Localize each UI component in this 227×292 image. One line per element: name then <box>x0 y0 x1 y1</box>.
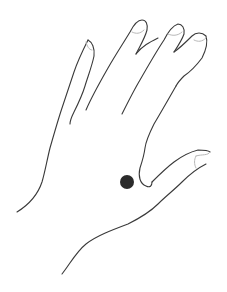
thumb-lower <box>62 164 206 274</box>
middle-nail <box>168 32 182 35</box>
index-nail <box>194 38 206 41</box>
middle-finger-outline <box>122 24 184 114</box>
acupressure-point-marker <box>120 175 134 189</box>
hand-right-edge <box>139 86 176 187</box>
hand-drawing <box>0 0 227 292</box>
pinky-outline <box>17 40 88 212</box>
middle-ring-gap <box>136 38 158 54</box>
hand-illustration: Line drawing of an open left hand, palm-… <box>0 0 227 292</box>
ring-nail <box>132 30 144 33</box>
